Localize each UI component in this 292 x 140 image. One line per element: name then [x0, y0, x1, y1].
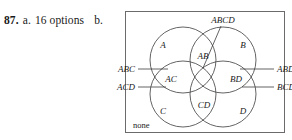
outer-label-abc: ABC — [117, 64, 136, 74]
page-root: 87.a.16 optionsb. A B C D AB AC BD CD A — [0, 0, 292, 140]
outer-label-abcd: ABCD — [210, 15, 235, 25]
answer-line: 87.a.16 optionsb. — [4, 14, 103, 26]
exercise-number: 87. — [4, 14, 19, 26]
region-label-a: A — [159, 40, 166, 50]
part-a-letter: a. — [23, 14, 31, 26]
circle-set-c — [150, 61, 216, 127]
part-a-answer: 16 options — [35, 14, 84, 26]
venn-diagram-figure: A B C D AB AC BD CD ABCD ABC ACD ABD BCD… — [125, 11, 285, 133]
region-label-bd: BD — [230, 74, 242, 84]
part-b-letter: b. — [94, 14, 103, 26]
label-none: none — [133, 120, 150, 130]
outer-label-abd: ABD — [276, 64, 292, 74]
region-label-cd: CD — [198, 100, 211, 110]
region-label-d: D — [239, 106, 247, 116]
region-label-ab: AB — [197, 51, 209, 61]
region-label-c: C — [160, 106, 167, 116]
venn-diagram-svg: A B C D AB AC BD CD ABCD ABC ACD ABD BCD… — [126, 12, 286, 134]
region-label-b: B — [240, 40, 246, 50]
circle-set-d — [190, 61, 256, 127]
region-label-ac: AC — [164, 74, 177, 84]
outer-label-acd: ACD — [116, 82, 136, 92]
outer-label-bcd: BCD — [277, 82, 292, 92]
